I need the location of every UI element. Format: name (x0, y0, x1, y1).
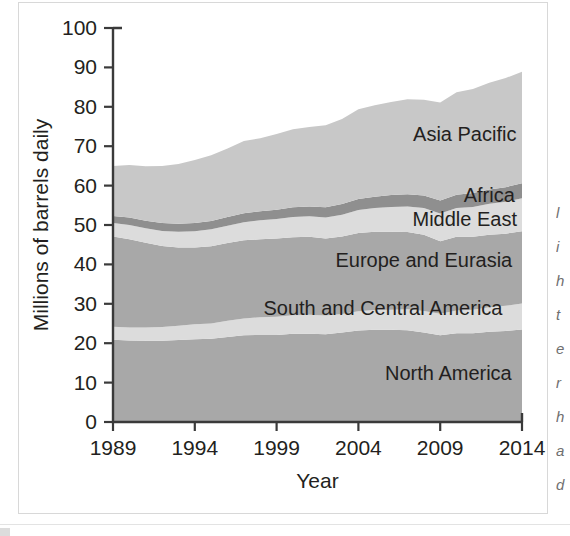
series-label-africa: Africa (464, 184, 516, 206)
y-tick-label: 100 (62, 16, 97, 39)
x-tick-label: 1989 (90, 436, 137, 459)
y-tick-label: 90 (74, 55, 97, 78)
edge-text-line: e (556, 332, 570, 366)
x-tick-label: 1999 (253, 436, 300, 459)
edge-text-line: r (556, 366, 570, 400)
edge-text-line: t (556, 298, 570, 332)
figure-page: 0102030405060708090100198919941999200420… (0, 0, 570, 536)
edge-text-line: d (556, 468, 570, 496)
series-label-north-america: North America (385, 362, 513, 384)
y-tick-label: 30 (74, 292, 97, 315)
edge-text-line: i (556, 230, 570, 264)
x-tick-label: 1994 (171, 436, 218, 459)
stacked-area-chart: 0102030405060708090100198919941999200420… (0, 0, 570, 536)
x-tick-label: 2004 (335, 436, 382, 459)
y-tick-label: 10 (74, 371, 97, 394)
cropped-body-text-fragment: lihterhad (556, 196, 570, 496)
y-tick-label: 70 (74, 134, 97, 157)
chart-svg: 0102030405060708090100198919941999200420… (0, 0, 570, 536)
series-label-europe-and-eurasia: Europe and Eurasia (335, 249, 513, 271)
y-axis-title: Millions of barrels daily (29, 118, 52, 331)
x-tick-label: 2009 (417, 436, 464, 459)
series-label-asia-pacific: Asia Pacific (413, 123, 516, 145)
y-tick-label: 40 (74, 252, 97, 275)
edge-text-line: h (556, 264, 570, 298)
y-tick-label: 80 (74, 95, 97, 118)
edge-text-line: h (556, 400, 570, 434)
y-tick-label: 50 (74, 213, 97, 236)
series-label-south-and-central-america: South and Central America (263, 297, 503, 319)
y-tick-label: 0 (85, 410, 97, 433)
edge-text-line: a (556, 434, 570, 468)
edge-text-line: l (556, 196, 570, 230)
x-axis-title: Year (296, 469, 338, 492)
x-tick-label: 2014 (499, 436, 546, 459)
series-label-middle-east: Middle East (412, 208, 517, 230)
y-tick-label: 20 (74, 331, 97, 354)
y-tick-label: 60 (74, 174, 97, 197)
